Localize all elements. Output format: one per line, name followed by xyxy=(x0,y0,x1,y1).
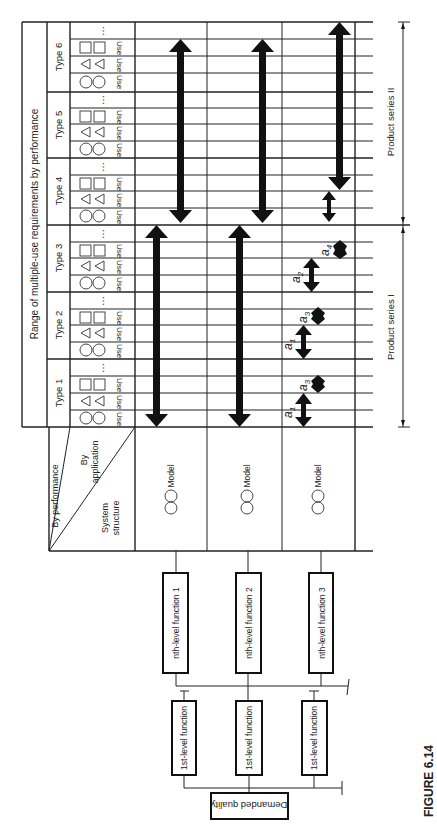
label-a2: a2 xyxy=(289,271,305,283)
triangle-pair-icon xyxy=(81,127,104,137)
type-label-5: Type 5 xyxy=(53,111,64,140)
double-arrow-icon xyxy=(228,225,251,427)
square-pair-icon xyxy=(80,312,105,323)
model-label: Model xyxy=(313,464,323,487)
model-cell-1: Model xyxy=(165,464,177,514)
square-pair-icon xyxy=(80,379,105,390)
nth-level-function-2-box: nth-level function 2 xyxy=(236,573,261,673)
double-arrow-icon xyxy=(328,22,351,190)
circle-pair-icon xyxy=(80,412,105,424)
type-label-4: Type 4 xyxy=(53,177,64,206)
label-a4: a4 xyxy=(318,244,334,256)
nth-level-function-1-box: nth-level function 1 xyxy=(163,573,188,673)
nth-level-function-3-box: nth-level function 3 xyxy=(309,573,333,673)
first-level-function-3-box: 1st-level function xyxy=(302,701,327,775)
use-cells: … Use Use Use … Use Use Use … xyxy=(80,26,124,427)
label-a1-upper: a1 xyxy=(281,339,297,350)
label-a3-lower: a3 xyxy=(296,379,312,391)
use-label: Use xyxy=(115,277,124,292)
type-1-uses: … Use Use Use xyxy=(80,363,124,427)
figure-caption: FIGURE 6.14 xyxy=(422,745,436,817)
by-application-label: By xyxy=(79,454,89,465)
ellipsis-icon: … xyxy=(95,363,106,373)
first-level-function-2-box: 1st-level function xyxy=(236,701,262,775)
triangle-pair-icon xyxy=(81,194,104,204)
double-arrow-icon xyxy=(311,307,325,325)
use-label: Use xyxy=(115,210,124,225)
label-a3-upper: a3 xyxy=(296,311,312,323)
circle-pair-icon xyxy=(80,344,105,356)
double-arrow-icon xyxy=(145,225,168,427)
triangle-pair-icon xyxy=(81,261,104,271)
system-structure-label-2: structure xyxy=(111,500,121,535)
first-level-function-1-label: 1st-level function xyxy=(179,706,189,770)
double-arrow-icon xyxy=(251,39,274,223)
label-a1-lower: a1 xyxy=(281,407,297,418)
type-5-uses: … Use Use Use xyxy=(80,95,124,158)
circle-pair-icon xyxy=(241,490,253,514)
model-cell-3: Model xyxy=(312,464,324,514)
circle-pair-icon xyxy=(80,143,105,155)
use-label: Use xyxy=(115,327,124,342)
use-label: Use xyxy=(115,126,124,141)
ellipsis-icon: … xyxy=(95,26,106,36)
first-level-function-2-label: 1st-level function xyxy=(244,706,254,770)
model-label: Model xyxy=(166,464,176,487)
square-pair-icon xyxy=(80,42,105,53)
use-label: Use xyxy=(115,177,124,192)
product-series-i-label: Product series I xyxy=(385,294,396,360)
use-label: Use xyxy=(115,75,124,90)
demanded-quality-box: Demanded quality xyxy=(210,793,288,819)
use-label: Use xyxy=(115,143,124,158)
type-label-3: Type 3 xyxy=(53,244,64,273)
ellipsis-icon: … xyxy=(95,162,106,172)
model-label: Model xyxy=(242,464,252,487)
double-arrow-icon xyxy=(169,39,192,223)
use-label: Use xyxy=(115,41,124,56)
use-label: Use xyxy=(115,58,124,73)
square-pair-icon xyxy=(80,111,105,122)
function-tree: nth-level function 1 nth-level function … xyxy=(163,551,349,819)
requirements-matrix: Range of multiple-use requirements by pe… xyxy=(22,22,410,551)
circle-pair-icon xyxy=(165,490,177,514)
use-label: Use xyxy=(115,395,124,410)
use-label: Use xyxy=(115,193,124,208)
type-6-uses: … Use Use Use xyxy=(80,26,124,90)
use-label: Use xyxy=(115,260,124,275)
type-label-1: Type 1 xyxy=(53,379,64,408)
circle-pair-icon xyxy=(80,277,105,289)
type-label-6: Type 6 xyxy=(53,43,64,72)
circle-pair-icon xyxy=(80,210,105,222)
use-label: Use xyxy=(115,110,124,125)
triangle-pair-icon xyxy=(81,396,104,406)
type-3-uses: … Use Use Use xyxy=(80,229,124,292)
ellipsis-icon: … xyxy=(95,95,106,105)
double-arrow-icon xyxy=(322,191,336,222)
circle-pair-icon xyxy=(312,490,324,514)
type-2-uses: … Use Use Use xyxy=(80,296,124,359)
square-pair-icon xyxy=(80,178,105,189)
model-cell-2: Model xyxy=(241,464,253,514)
ellipsis-icon: … xyxy=(95,229,106,239)
double-arrow-icon xyxy=(333,240,347,259)
by-performance-label: By performance xyxy=(50,464,60,528)
circle-pair-icon xyxy=(80,76,105,88)
type-4-uses: … Use Use Use xyxy=(80,162,124,225)
double-arrow-icon xyxy=(311,375,325,393)
system-structure-label: System xyxy=(100,503,110,533)
model-header: By performance By application System str… xyxy=(49,427,373,551)
nth-level-function-1-label: nth-level function 1 xyxy=(171,587,181,659)
type-label-2: Type 2 xyxy=(53,311,64,340)
nth-level-function-3-label: nth-level function 3 xyxy=(317,587,327,659)
first-level-function-1-box: 1st-level function xyxy=(172,701,196,775)
use-label: Use xyxy=(115,412,124,427)
use-label: Use xyxy=(115,344,124,359)
triangle-pair-icon xyxy=(81,59,104,69)
use-label: Use xyxy=(115,244,124,259)
demanded-quality-label: Demanded quality xyxy=(210,800,287,811)
ellipsis-icon: … xyxy=(95,296,106,306)
first-level-function-3-label: 1st-level function xyxy=(309,706,319,770)
nth-level-function-2-label: nth-level function 2 xyxy=(244,587,254,659)
use-label: Use xyxy=(115,311,124,326)
product-series-ii-label: Product series II xyxy=(385,88,396,157)
